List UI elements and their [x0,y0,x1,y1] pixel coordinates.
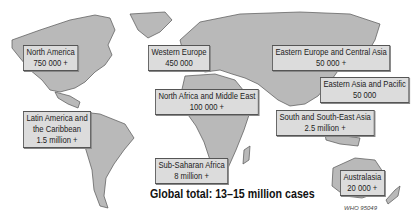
region-value: 50 000 + [275,58,386,69]
label-australasia: Australasia 20 000 + [340,170,385,196]
region-value: 50 000 [323,90,406,101]
region-value: 100 000 + [158,102,255,113]
region-name: Australasia [343,172,381,183]
region-name: Sub-Saharan Africa [158,160,224,171]
region-name: North America [26,47,74,58]
region-value: 2.5 million + [279,123,370,134]
label-eastern-europe-central-asia: Eastern Europe and Central Asia 50 000 + [272,45,390,71]
label-western-europe: Western Europe 450 000 [148,45,210,71]
label-eastern-asia-pacific: Eastern Asia and Pacific 50 000 [320,77,409,103]
region-value: 1.5 million + [26,135,87,146]
label-sub-saharan-africa: Sub-Saharan Africa 8 million + [155,158,228,184]
region-value: 8 million + [158,171,224,182]
greenland-landmass [130,12,172,38]
region-value: 450 000 [151,58,206,69]
region-name: Western Europe [151,47,206,58]
region-name: South and South-East Asia [279,112,370,123]
region-name: Eastern Asia and Pacific [323,79,406,90]
label-latin-america-caribbean: Latin America and the Caribbean 1.5 mill… [23,111,91,148]
new-zealand-landmass [386,186,400,204]
region-name: North Africa and Middle East [158,91,255,102]
label-north-africa-middle-east: North Africa and Middle East 100 000 + [155,89,259,115]
region-name-line1: Latin America and [26,113,87,124]
label-south-southeast-asia: South and South-East Asia 2.5 million + [276,110,374,136]
global-total: Global total: 13–15 million cases [150,186,315,201]
label-north-america: North America 750 000 + [23,45,78,71]
region-name-line2: the Caribbean [26,124,87,135]
region-name: Eastern Europe and Central Asia [275,47,386,58]
region-value: 20 000 + [343,183,381,194]
figure-reference: WHO 95049 [344,205,377,211]
region-value: 750 000 + [26,58,74,69]
madagascar-landmass [243,146,250,164]
central-america-landmass [55,92,80,108]
